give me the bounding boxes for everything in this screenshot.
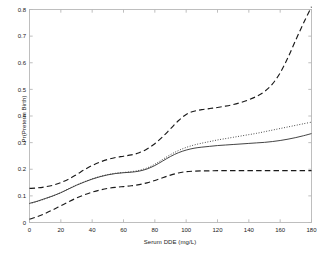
x-tick-label: 60 bbox=[120, 227, 127, 233]
series-line-1 bbox=[30, 122, 312, 203]
y-tick-label: 0 bbox=[23, 220, 27, 226]
y-tick-label: 0.7 bbox=[18, 33, 27, 39]
series-line-0 bbox=[30, 134, 312, 204]
series-line-2 bbox=[30, 7, 312, 189]
figure: 02040608010012014016018000.10.20.30.40.5… bbox=[0, 0, 323, 253]
x-axis-label: Serum DDE (mg/L) bbox=[29, 239, 311, 245]
x-tick-label: 120 bbox=[212, 227, 223, 233]
x-tick-label: 0 bbox=[28, 227, 32, 233]
chart-canvas: 02040608010012014016018000.10.20.30.40.5… bbox=[0, 0, 323, 253]
x-tick-label: 140 bbox=[244, 227, 255, 233]
x-tick-label: 180 bbox=[306, 227, 317, 233]
x-tick-label: 40 bbox=[89, 227, 96, 233]
plot-box bbox=[30, 10, 312, 223]
y-axis-label: Pr(Preterm Birth) bbox=[21, 64, 27, 174]
x-tick-label: 100 bbox=[181, 227, 192, 233]
x-tick-label: 80 bbox=[151, 227, 158, 233]
x-tick-label: 20 bbox=[57, 227, 64, 233]
y-tick-label: 0.8 bbox=[18, 7, 27, 13]
x-tick-label: 160 bbox=[275, 227, 286, 233]
y-tick-label: 0.1 bbox=[18, 193, 27, 199]
